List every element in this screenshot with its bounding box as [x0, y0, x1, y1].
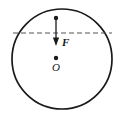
figure-caption: [0, 115, 132, 125]
diagram-canvas: [0, 0, 132, 125]
force-arrow-head: [53, 38, 59, 47]
center-point-label: O: [52, 62, 60, 73]
figure-container: F O: [0, 0, 132, 125]
center-point-dot: [54, 56, 58, 60]
disk-outline: [12, 9, 112, 109]
force-label: F: [62, 37, 69, 48]
